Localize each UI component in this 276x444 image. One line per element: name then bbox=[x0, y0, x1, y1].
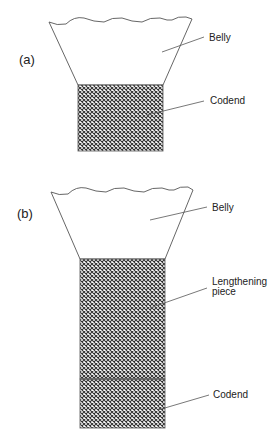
panel-b-codend-label: Codend bbox=[213, 389, 248, 400]
panel-a-codend bbox=[78, 85, 163, 151]
panel-a-label: (a) bbox=[19, 52, 35, 67]
panel-b-belly bbox=[51, 187, 193, 259]
panel-b-lengthening-piece bbox=[80, 259, 165, 379]
panel-b-lengthening-label: Lengthening piece bbox=[212, 276, 270, 297]
panel-b: (b) Belly Lengthening piece Codend bbox=[17, 187, 270, 428]
panel-b-label: (b) bbox=[17, 206, 33, 221]
panel-a-belly-label: Belly bbox=[209, 32, 231, 43]
lengthening-label-line-2: piece bbox=[212, 286, 236, 297]
panel-b-codend-leader bbox=[158, 395, 209, 410]
panel-b-belly-label: Belly bbox=[212, 202, 234, 213]
panel-b-codend bbox=[80, 379, 165, 428]
panel-a-codend-label: Codend bbox=[210, 95, 245, 106]
panel-a: (a) Belly Codend bbox=[19, 17, 245, 151]
panel-a-belly bbox=[49, 17, 192, 85]
trawl-net-diagram: (a) Belly Codend (b) Belly Lengthening p… bbox=[0, 0, 276, 444]
